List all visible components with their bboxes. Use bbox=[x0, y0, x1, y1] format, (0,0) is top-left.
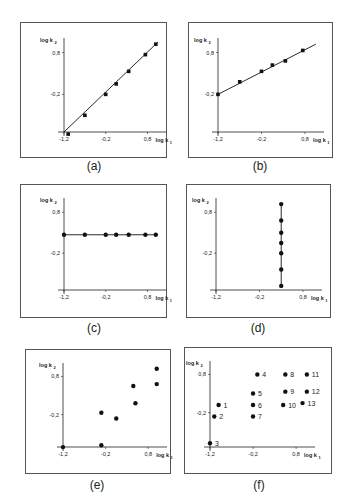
chart-f: -1,2-0,20,8log k 10,8-0,2log k 212345678… bbox=[184, 347, 332, 474]
data-point bbox=[131, 384, 135, 388]
x-tick-label: 0,8 bbox=[301, 136, 309, 142]
data-point bbox=[284, 59, 288, 63]
data-point bbox=[238, 80, 242, 84]
data-point-label: 3 bbox=[215, 440, 219, 447]
x-tick-label: -0,2 bbox=[101, 294, 110, 300]
caption-d: (d) bbox=[238, 321, 278, 335]
panel-f: -1,2-0,20,8log k 10,8-0,2log k 212345678… bbox=[184, 347, 332, 474]
x-tick-label: -1,2 bbox=[58, 451, 67, 457]
data-point bbox=[251, 391, 255, 395]
x-tick-label: -1,2 bbox=[59, 136, 68, 142]
caption-c: (c) bbox=[74, 321, 114, 335]
data-point bbox=[305, 372, 309, 376]
data-point-label: 8 bbox=[290, 371, 294, 378]
data-point-label: 4 bbox=[262, 371, 266, 378]
caption-b: (b) bbox=[240, 159, 280, 173]
data-point-label: 13 bbox=[308, 400, 316, 407]
y-tick-label: -0,2 bbox=[203, 250, 212, 256]
data-point bbox=[300, 401, 304, 405]
y-tick-label: 0,8 bbox=[51, 373, 59, 379]
data-point bbox=[281, 403, 285, 407]
data-point bbox=[260, 70, 264, 74]
data-point bbox=[212, 414, 216, 418]
x-axis-label-subscript: 1 bbox=[170, 140, 173, 145]
data-point bbox=[66, 132, 70, 136]
y-tick-label: 0,8 bbox=[206, 50, 214, 56]
caption-a: (a) bbox=[74, 159, 114, 173]
x-tick-label: 0,8 bbox=[144, 136, 152, 142]
x-tick-label: -1,2 bbox=[205, 451, 214, 457]
y-tick-label: -0,2 bbox=[51, 250, 60, 256]
data-point bbox=[279, 284, 283, 288]
x-tick-label: 0,8 bbox=[144, 294, 152, 300]
x-tick-label: -1,2 bbox=[213, 136, 222, 142]
data-point bbox=[62, 233, 66, 237]
data-point bbox=[114, 233, 118, 237]
data-point-label: 1 bbox=[224, 402, 228, 409]
chart-b: -1,2-0,20,8log k 10,8-0,2log k 2 bbox=[188, 22, 333, 158]
panel-e: -1,2-0,20,8log k 10,8-0,2log k 2 bbox=[25, 349, 171, 474]
data-point bbox=[301, 49, 305, 53]
data-point bbox=[279, 251, 283, 255]
y-tick-label: -0,2 bbox=[51, 91, 60, 97]
x-tick-label: -0,2 bbox=[101, 136, 110, 142]
data-point bbox=[114, 416, 118, 420]
caption-e: (e) bbox=[77, 478, 117, 492]
data-point bbox=[154, 42, 158, 46]
data-point-label: 9 bbox=[290, 388, 294, 395]
y-tick-label: -0,2 bbox=[197, 410, 206, 416]
data-point-label: 2 bbox=[219, 413, 223, 420]
y-tick-label: -0,2 bbox=[50, 412, 59, 418]
data-point-label: 6 bbox=[258, 402, 262, 409]
data-point bbox=[283, 389, 287, 393]
data-point bbox=[99, 411, 103, 415]
data-point bbox=[279, 218, 283, 222]
data-point bbox=[208, 441, 212, 445]
x-tick-label: -1,2 bbox=[211, 294, 220, 300]
chart-c: -1,2-0,20,8log k 10,8-0,2log k 2 bbox=[20, 184, 167, 318]
data-point bbox=[104, 93, 108, 97]
chart-a: -1,2-0,20,8log k 10,8-0,2log k 2 bbox=[20, 22, 167, 158]
data-point bbox=[133, 401, 137, 405]
data-point-label: 12 bbox=[312, 388, 320, 395]
x-tick-label: 0,8 bbox=[292, 451, 300, 457]
data-point bbox=[99, 443, 103, 447]
chart-d: -1,2-0,20,8log k 10,8-0,2log k 2 bbox=[186, 184, 331, 318]
data-point bbox=[279, 241, 283, 245]
data-point bbox=[305, 389, 309, 393]
data-point bbox=[83, 113, 87, 117]
data-point bbox=[104, 233, 108, 237]
y-tick-label: 0,8 bbox=[198, 371, 206, 377]
data-point bbox=[127, 70, 131, 74]
x-axis-label-subscript: 1 bbox=[171, 455, 174, 460]
panel-c: -1,2-0,20,8log k 10,8-0,2log k 2 bbox=[20, 184, 167, 318]
data-point bbox=[279, 202, 283, 206]
data-point bbox=[251, 403, 255, 407]
data-point bbox=[143, 233, 147, 237]
x-tick-label: 0,8 bbox=[299, 294, 307, 300]
x-tick-label: -0,2 bbox=[255, 294, 264, 300]
data-point bbox=[126, 233, 130, 237]
data-point-label: 11 bbox=[312, 371, 319, 378]
y-tick-label: 0,8 bbox=[52, 209, 60, 215]
data-point bbox=[61, 445, 65, 449]
data-point bbox=[216, 403, 220, 407]
data-point bbox=[251, 414, 255, 418]
x-tick-label: -0,2 bbox=[248, 451, 257, 457]
y-tick-label: 0,8 bbox=[204, 209, 212, 215]
data-point bbox=[83, 233, 87, 237]
data-point-label: 7 bbox=[258, 413, 262, 420]
data-point bbox=[279, 231, 283, 235]
data-point bbox=[271, 63, 275, 67]
data-point bbox=[144, 53, 148, 57]
panel-b: -1,2-0,20,8log k 10,8-0,2log k 2 bbox=[188, 22, 333, 158]
data-point bbox=[279, 267, 283, 271]
x-tick-label: -0,2 bbox=[101, 451, 110, 457]
panel-a: -1,2-0,20,8log k 10,8-0,2log k 2 bbox=[20, 22, 167, 158]
y-tick-label: -0,2 bbox=[205, 91, 214, 97]
data-point bbox=[155, 382, 159, 386]
panel-d: -1,2-0,20,8log k 10,8-0,2log k 2 bbox=[186, 184, 331, 318]
x-tick-label: -1,2 bbox=[59, 294, 68, 300]
chart-e: -1,2-0,20,8log k 10,8-0,2log k 2 bbox=[25, 349, 171, 474]
y-tick-label: 0,8 bbox=[52, 50, 60, 56]
